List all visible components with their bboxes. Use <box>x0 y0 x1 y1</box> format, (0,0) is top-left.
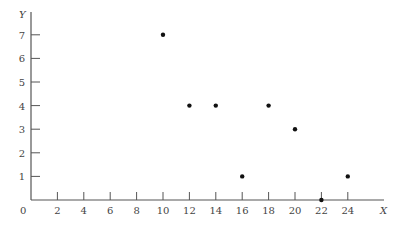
y-tick-label: 4 <box>19 101 25 112</box>
data-point <box>240 174 244 178</box>
data-point <box>293 127 297 131</box>
x-tick-label: 14 <box>209 205 222 216</box>
origin-label: 0 <box>20 205 26 216</box>
y-tick-label: 6 <box>19 53 25 64</box>
x-axis-title: X <box>379 205 388 216</box>
data-point <box>319 198 323 202</box>
tick-labels: 246810121416182022241234567 <box>19 30 354 216</box>
y-tick-label: 5 <box>19 77 25 88</box>
x-tick-label: 6 <box>107 205 113 216</box>
x-tick-label: 4 <box>81 205 87 216</box>
y-tick-label: 3 <box>19 124 25 135</box>
x-tick-label: 8 <box>133 205 139 216</box>
data-point <box>214 103 218 107</box>
x-tick-label: 10 <box>157 205 170 216</box>
data-point <box>187 103 191 107</box>
y-tick-label: 1 <box>19 171 25 182</box>
axes <box>31 12 384 200</box>
data-point <box>346 174 350 178</box>
ticks <box>31 35 348 200</box>
x-tick-label: 16 <box>236 205 249 216</box>
data-point <box>161 33 165 37</box>
data-point <box>266 103 270 107</box>
data-points <box>161 33 350 203</box>
scatter-chart: 246810121416182022241234567 0 X Y <box>0 0 405 229</box>
x-tick-label: 2 <box>54 205 60 216</box>
x-tick-label: 22 <box>315 205 328 216</box>
y-tick-label: 2 <box>19 148 25 159</box>
y-tick-label: 7 <box>19 30 25 41</box>
y-axis-title: Y <box>19 9 27 20</box>
x-tick-label: 20 <box>289 205 302 216</box>
x-tick-label: 18 <box>262 205 275 216</box>
x-tick-label: 24 <box>341 205 354 216</box>
x-tick-label: 12 <box>183 205 196 216</box>
